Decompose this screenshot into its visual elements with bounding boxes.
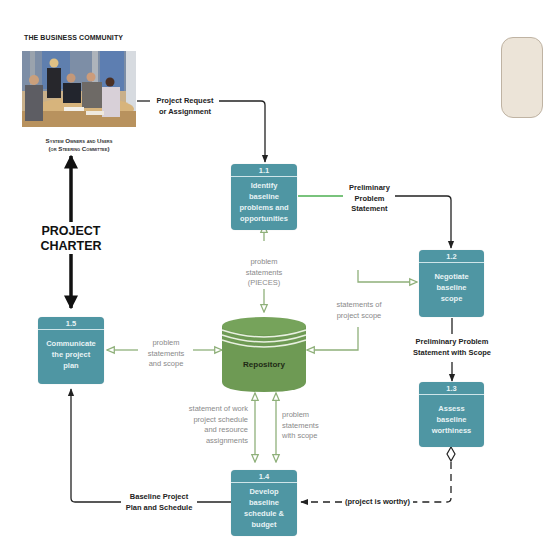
process-label-line: Develop	[231, 486, 297, 497]
label-line: Baseline Project	[118, 492, 200, 503]
label-line: Statement with Scope	[406, 348, 498, 359]
process-1-5[interactable]: 1.5 Communicate the project plan	[38, 317, 104, 384]
label-line: assignments	[168, 436, 248, 447]
process-label: Develop baseline schedule & budget	[231, 483, 297, 530]
process-label: Communicate the project plan	[38, 330, 104, 371]
process-id: 1.4	[231, 470, 297, 483]
label-problem-scope: problem statements and scope	[140, 338, 192, 370]
label-line: problem	[241, 257, 287, 268]
process-label-line: baseline	[231, 191, 297, 202]
process-label-line: Assess	[419, 403, 484, 414]
external-entity-heading: THE BUSINESS COMMUNITY	[24, 34, 123, 41]
label-project-worthy: (project is worthy)	[341, 497, 414, 508]
label-line: problem	[140, 338, 192, 349]
label-line: Problem	[343, 194, 396, 205]
label-line: and resource	[168, 425, 248, 436]
process-id: 1.2	[419, 250, 484, 263]
label-line: Plan and Schedule	[118, 503, 200, 514]
label-line: statements	[241, 268, 287, 279]
process-1-2[interactable]: 1.2 Negotiate baseline scope	[419, 250, 484, 317]
process-1-4[interactable]: 1.4 Develop baseline schedule & budget	[231, 470, 297, 536]
process-label: Assess baseline worthiness	[419, 395, 484, 436]
label-line: with scope	[282, 431, 342, 442]
label-line: Preliminary Problem	[406, 337, 498, 348]
process-label-line: the project	[38, 349, 104, 360]
label-line: project scope	[328, 311, 390, 322]
label-baseline-plan: Baseline Project Plan and Schedule	[118, 492, 200, 513]
process-label: Negotiate baseline scope	[419, 263, 484, 304]
process-1-1[interactable]: 1.1 Identify baseline problems and oppor…	[231, 164, 297, 230]
caption-line-1: System Owners and Users	[18, 137, 140, 145]
label-line: (PIECES)	[241, 278, 287, 289]
repository-label: Repository	[222, 360, 306, 369]
label-line: statements	[282, 421, 342, 432]
label-project-request: Project Request or Assignment	[150, 96, 220, 117]
flow-repo-14	[255, 393, 276, 462]
label-line: problem	[282, 410, 342, 421]
label-pieces: problem statements (PIECES)	[241, 257, 287, 289]
process-label-line: Communicate	[38, 338, 104, 349]
label-problem-with-scope: problem statements with scope	[282, 410, 342, 442]
process-label-line: Negotiate	[419, 271, 484, 282]
label-preliminary-problem: Preliminary Problem Statement	[343, 183, 396, 215]
process-id: 1.3	[419, 382, 484, 395]
process-label-line: schedule &	[231, 508, 297, 519]
photo-illustration	[22, 51, 136, 127]
side-note-box	[501, 37, 543, 118]
label-line: Preliminary	[343, 183, 396, 194]
business-meeting-photo	[22, 51, 136, 127]
process-label-line: baseline	[419, 282, 484, 293]
label-line: or Assignment	[150, 107, 220, 118]
label-statement-of-work: statement of work project schedule and r…	[168, 404, 248, 446]
label-line: project schedule	[168, 415, 248, 426]
process-label-line: problems and	[231, 202, 297, 213]
process-label-line: worthiness	[419, 425, 484, 436]
process-id: 1.5	[38, 317, 104, 330]
flow-project-worthy	[301, 447, 455, 502]
label-line: and scope	[140, 359, 192, 370]
label-scope-statements: statements of project scope	[328, 300, 390, 321]
project-charter-label: PROJECT CHARTER	[22, 224, 120, 254]
process-id: 1.1	[231, 164, 297, 177]
label-line: Project Request	[150, 96, 220, 107]
process-label-line: opportunities	[231, 213, 297, 224]
repository-data-store	[222, 317, 306, 392]
label-line: Statement	[343, 204, 396, 215]
process-label-line: baseline	[231, 497, 297, 508]
label-preliminary-scope: Preliminary Problem Statement with Scope	[406, 337, 498, 358]
process-label-line: budget	[231, 519, 297, 530]
process-1-3[interactable]: 1.3 Assess baseline worthiness	[419, 382, 484, 447]
process-label-line: scope	[419, 293, 484, 304]
charter-line-1: PROJECT	[22, 224, 120, 239]
label-line: statements of	[328, 300, 390, 311]
process-label: Identify baseline problems and opportuni…	[231, 177, 297, 224]
charter-line-2: CHARTER	[22, 239, 120, 254]
process-label-line: baseline	[419, 414, 484, 425]
label-line: statement of work	[168, 404, 248, 415]
process-label-line: Identify	[231, 180, 297, 191]
caption-line-2: (or Steering Committee)	[18, 145, 140, 153]
process-label-line: plan	[38, 360, 104, 371]
label-line: statements	[140, 349, 192, 360]
external-entity-caption: System Owners and Users (or Steering Com…	[18, 137, 140, 153]
